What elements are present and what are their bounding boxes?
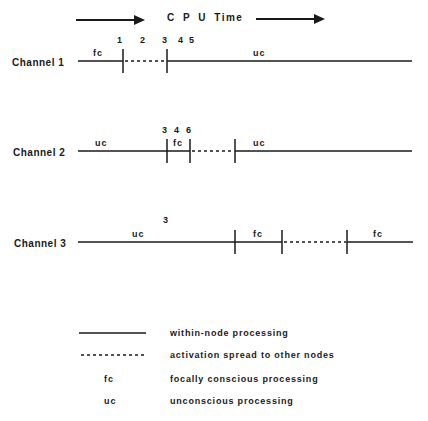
- legend-activation-spread-text: activation spread to other nodes: [170, 351, 335, 360]
- segment-label-fc: fc: [253, 230, 263, 239]
- channel-2-label: Channel 2: [13, 148, 65, 158]
- segment-label-uc: uc: [253, 139, 266, 148]
- legend-unconscious-text: unconscious processing: [170, 397, 294, 406]
- time-marker: 6: [186, 126, 192, 135]
- channel-3-timeline: [78, 230, 413, 254]
- channel-3-label: Channel 3: [14, 239, 66, 249]
- time-marker: 3: [162, 36, 168, 45]
- time-marker: 3: [163, 216, 169, 225]
- segment-label-uc: uc: [253, 49, 266, 58]
- channel-1-label: Channel 1: [12, 58, 64, 68]
- legend-within-node-text: within-node processing: [170, 329, 289, 338]
- time-arrow-left: [76, 15, 145, 25]
- time-marker: 3: [162, 126, 168, 135]
- segment-label-uc: uc: [95, 139, 108, 148]
- cpu-time-title: C P U Time: [167, 13, 243, 23]
- time-marker: 4: [178, 36, 184, 45]
- time-marker: 5: [189, 36, 195, 45]
- channel-1-timeline: [78, 49, 412, 73]
- segment-label-uc: uc: [132, 230, 145, 239]
- segment-label-fc: fc: [373, 230, 383, 239]
- time-marker: 4: [174, 126, 180, 135]
- legend-focally-conscious-text: focally conscious processing: [170, 375, 318, 384]
- time-arrow-right: [256, 14, 325, 24]
- legend-uc-symbol: uc: [104, 397, 117, 406]
- segment-label-fc: fc: [173, 139, 183, 148]
- time-marker: 2: [140, 36, 146, 45]
- segment-label-fc: fc: [93, 49, 103, 58]
- channel-2-timeline: [78, 139, 412, 163]
- legend-fc-symbol: fc: [104, 375, 114, 384]
- time-marker: 1: [117, 36, 123, 45]
